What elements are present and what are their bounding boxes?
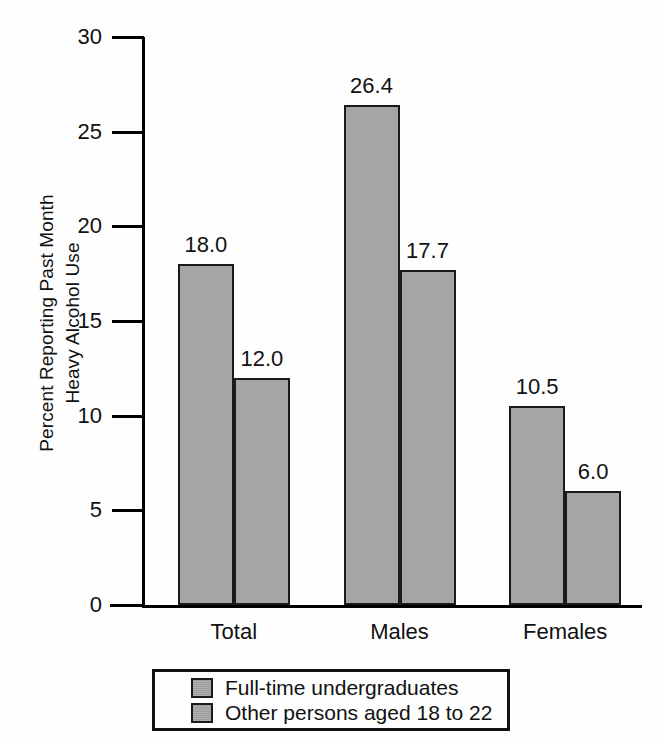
bar xyxy=(344,105,400,605)
y-axis-tick-mark xyxy=(112,320,144,323)
y-axis-tick-label: 0 xyxy=(56,594,102,616)
y-axis-tick-label: 15 xyxy=(56,310,102,332)
x-axis-line xyxy=(142,605,642,608)
legend-swatch-icon xyxy=(191,678,213,698)
bar-value-label: 12.0 xyxy=(222,348,302,370)
legend-item: Full-time undergraduates xyxy=(191,675,507,700)
plot-area: 18.012.026.417.710.56.0 xyxy=(145,37,642,605)
y-axis-tick-label: 20 xyxy=(56,215,102,237)
legend: Full-time undergraduates Other persons a… xyxy=(152,669,510,731)
legend-item: Other persons aged 18 to 22 xyxy=(191,700,507,725)
y-axis-tick-label: 10 xyxy=(56,405,102,427)
y-axis-tick-mark xyxy=(112,36,144,39)
y-axis-tick-mark xyxy=(112,415,144,418)
y-axis-tick-mark xyxy=(112,509,144,512)
y-axis-tick-mark xyxy=(110,604,144,607)
legend-swatch-icon xyxy=(191,703,213,723)
legend-item-label: Full-time undergraduates xyxy=(225,676,458,699)
bar xyxy=(565,491,621,605)
x-axis-category-label: Females xyxy=(469,620,661,644)
y-axis-tick-label: 30 xyxy=(56,26,102,48)
y-axis-tick-label: 5 xyxy=(56,499,102,521)
y-axis-tick-label: 25 xyxy=(56,121,102,143)
bar-value-label: 10.5 xyxy=(497,376,577,398)
x-axis-category-label: Males xyxy=(304,620,496,644)
legend-item-label: Other persons aged 18 to 22 xyxy=(225,701,492,724)
bar-chart: Percent Reporting Past Month Heavy Alcoh… xyxy=(0,0,662,744)
bar-value-label: 6.0 xyxy=(553,461,633,483)
y-axis-tick-mark xyxy=(112,131,144,134)
bar-value-label: 18.0 xyxy=(166,234,246,256)
bar xyxy=(234,378,290,605)
bar xyxy=(400,270,456,605)
bar xyxy=(178,264,234,605)
x-axis-category-label: Total xyxy=(138,620,330,644)
bar-value-label: 26.4 xyxy=(332,75,412,97)
bar-value-label: 17.7 xyxy=(388,240,468,262)
bar xyxy=(509,406,565,605)
y-axis-tick-mark xyxy=(112,225,144,228)
